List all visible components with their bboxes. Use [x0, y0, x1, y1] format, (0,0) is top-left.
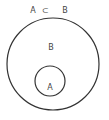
title-set-a: A: [30, 6, 36, 15]
outer-set-label: B: [48, 43, 54, 52]
title-set-b: B: [62, 6, 68, 15]
inner-set-label: A: [47, 83, 53, 92]
venn-diagram: A ⊂ B B A: [0, 0, 109, 120]
subset-symbol: ⊂: [42, 6, 49, 15]
